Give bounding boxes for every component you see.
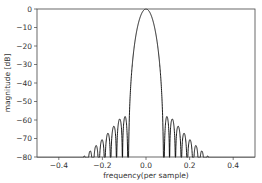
x-tick-label: 0.4 bbox=[227, 161, 239, 170]
y-tick-label: 0 bbox=[27, 5, 32, 14]
y-tick-label: −20 bbox=[16, 42, 32, 51]
y-tick-label: −30 bbox=[16, 60, 32, 69]
x-tick-label: −0.2 bbox=[93, 161, 111, 170]
y-tick-label: −60 bbox=[16, 116, 32, 125]
frequency-response-line bbox=[37, 9, 255, 158]
y-tick-label: −50 bbox=[16, 97, 32, 106]
x-tick-label: −0.4 bbox=[50, 161, 68, 170]
chart: −0.4−0.20.00.20.4 0−10−20−30−40−50−60−70… bbox=[0, 0, 262, 183]
y-tick-label: −80 bbox=[16, 153, 32, 162]
y-tick-label: −10 bbox=[16, 23, 32, 32]
plot-area bbox=[37, 9, 255, 158]
x-axis-ticks: −0.4−0.20.00.20.4 bbox=[50, 157, 240, 170]
y-axis-ticks: 0−10−20−30−40−50−60−70−80 bbox=[16, 5, 37, 162]
y-tick-label: −70 bbox=[16, 134, 32, 143]
y-tick-label: −40 bbox=[16, 79, 32, 88]
y-axis-label: magnitude [dB] bbox=[3, 54, 12, 113]
x-tick-label: 0.0 bbox=[140, 161, 152, 170]
x-tick-label: 0.2 bbox=[184, 161, 196, 170]
axes-frame bbox=[37, 9, 255, 157]
x-axis-label: frequency(per sample) bbox=[103, 171, 189, 180]
